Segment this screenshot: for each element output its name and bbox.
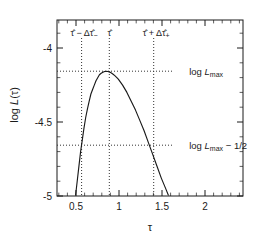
annot-tau-plus-sub: + bbox=[166, 32, 170, 39]
x-axis-title: τ bbox=[148, 221, 153, 233]
x-tick-label: 1.5 bbox=[155, 201, 169, 212]
annot-tau-minus-sub: − bbox=[93, 32, 97, 39]
y-axis-title-arg: (τ) bbox=[8, 87, 20, 99]
x-tick-label: 0.5 bbox=[69, 201, 83, 212]
y-tick-label: -5 bbox=[43, 191, 52, 202]
label-half-tail: − 1/2 bbox=[226, 140, 247, 151]
y-axis-title-log: log bbox=[8, 108, 20, 123]
label-half-log: log bbox=[189, 140, 202, 151]
likelihood-plot-figure: 0.5 1 1.5 2 -4 -4.5 -5 τ log L(τ) τ̂ − Δ… bbox=[0, 0, 260, 236]
y-tick-label: -4 bbox=[43, 43, 52, 54]
svg-text:log L(τ): log L(τ) bbox=[8, 72, 20, 144]
x-tick-label: 2 bbox=[202, 201, 208, 212]
x-tick-label: 1 bbox=[116, 201, 122, 212]
y-axis-title: log L(τ) bbox=[8, 72, 20, 144]
label-half-sub: max bbox=[210, 145, 224, 152]
label-log-lmax-sub: max bbox=[210, 71, 224, 78]
label-log-lmax-log: log bbox=[189, 66, 202, 77]
y-tick-label: -4.5 bbox=[35, 117, 53, 128]
